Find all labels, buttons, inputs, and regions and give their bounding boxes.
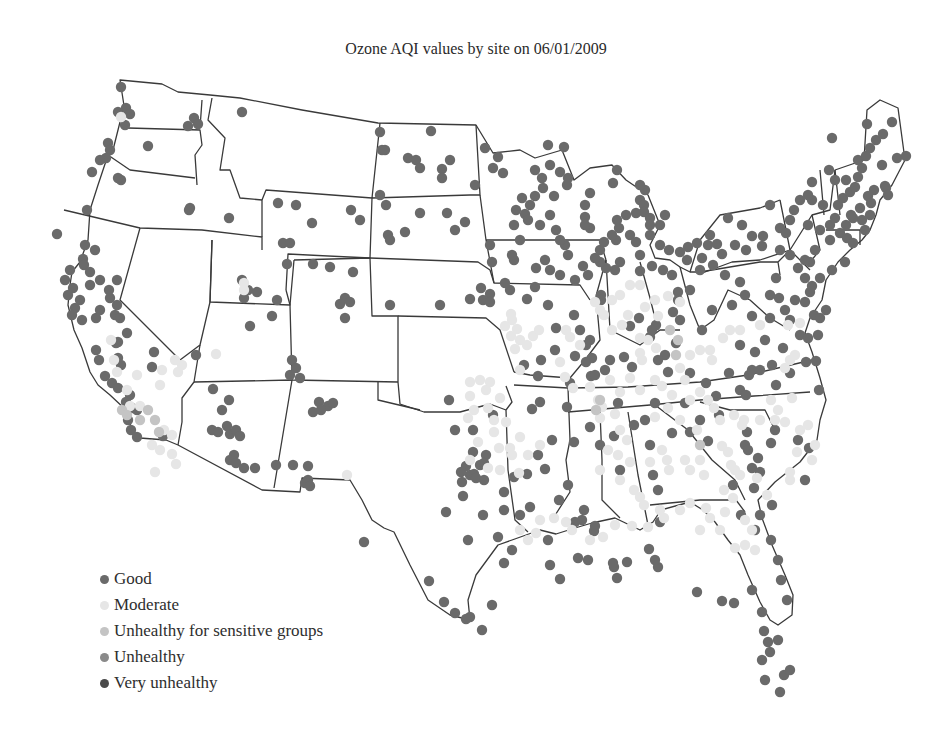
site-dot	[807, 455, 817, 465]
site-dot	[685, 285, 695, 295]
site-dot	[555, 270, 565, 280]
site-dot	[523, 535, 533, 545]
site-dot	[555, 574, 565, 584]
site-dot	[60, 275, 70, 285]
site-dot	[762, 490, 772, 500]
site-dot	[483, 463, 493, 473]
site-dot	[577, 515, 587, 525]
site-dot	[245, 321, 255, 331]
site-dot	[132, 432, 142, 442]
site-dot	[535, 220, 545, 230]
site-dot	[590, 521, 600, 531]
site-dot	[675, 505, 685, 515]
site-dot	[787, 393, 797, 403]
site-dot	[95, 275, 105, 285]
site-dot	[125, 109, 135, 119]
site-dot	[776, 575, 786, 585]
site-dot	[778, 343, 788, 353]
site-dot	[866, 198, 876, 208]
site-dot	[167, 430, 177, 440]
site-dot	[523, 450, 533, 460]
site-dot	[755, 510, 765, 520]
site-dot	[525, 200, 535, 210]
site-dot	[239, 285, 249, 295]
site-dot	[143, 405, 153, 415]
site-dot	[658, 265, 668, 275]
site-dot	[663, 367, 673, 377]
site-dot	[785, 665, 795, 675]
site-dot	[465, 455, 475, 465]
site-dot	[660, 210, 670, 220]
site-dot	[608, 178, 618, 188]
site-dot	[887, 117, 897, 127]
site-dot	[774, 293, 784, 303]
site-dot	[667, 390, 677, 400]
site-dot	[272, 295, 282, 305]
site-dot	[580, 212, 590, 222]
site-dot	[640, 415, 650, 425]
site-dot	[657, 445, 667, 455]
site-dot	[551, 225, 561, 235]
site-dot	[771, 380, 781, 390]
site-dot	[457, 477, 467, 487]
site-dot	[346, 205, 356, 215]
site-dot	[605, 375, 615, 385]
site-dot	[150, 415, 160, 425]
site-dot	[510, 344, 520, 354]
site-dot	[671, 350, 681, 360]
site-dot	[830, 213, 840, 223]
site-dot	[695, 265, 705, 275]
site-dot	[585, 535, 595, 545]
site-dot	[460, 217, 470, 227]
site-dot	[85, 267, 95, 277]
site-dot	[115, 313, 125, 323]
site-dot	[599, 310, 609, 320]
site-dot	[549, 191, 559, 201]
site-dot	[52, 229, 62, 239]
site-dot	[224, 213, 234, 223]
legend-item-good: Good	[100, 566, 323, 592]
site-dot	[562, 402, 572, 412]
site-dot	[668, 307, 678, 317]
site-dot	[570, 275, 580, 285]
legend-item-moderate: Moderate	[100, 592, 323, 618]
site-dot	[663, 403, 673, 413]
site-dot	[653, 485, 663, 495]
site-dot	[765, 647, 775, 657]
site-dot	[252, 287, 262, 297]
site-dot	[65, 265, 75, 275]
site-dot	[95, 155, 105, 165]
legend-label: Very unhealthy	[114, 673, 217, 693]
site-dot	[773, 555, 783, 565]
site-dot	[147, 362, 157, 372]
site-dot	[865, 210, 875, 220]
site-dot	[267, 311, 277, 321]
site-dot	[515, 525, 525, 535]
site-dot	[599, 237, 609, 247]
site-dot	[662, 455, 672, 465]
site-dot	[800, 475, 810, 485]
site-dot	[598, 532, 608, 542]
site-dot	[435, 300, 445, 310]
site-dot	[841, 220, 851, 230]
site-dot	[810, 440, 820, 450]
site-dot	[675, 415, 685, 425]
site-dot	[439, 597, 449, 607]
site-dot	[575, 340, 585, 350]
site-dot	[815, 273, 825, 283]
site-dot	[685, 498, 695, 508]
site-dot	[325, 262, 335, 272]
site-dot	[507, 450, 517, 460]
site-dot	[534, 325, 544, 335]
site-dot	[222, 421, 232, 431]
site-dot	[112, 300, 122, 310]
site-dot	[643, 335, 653, 345]
site-dot	[680, 455, 690, 465]
site-dot	[90, 245, 100, 255]
site-dot	[723, 447, 733, 457]
site-dot	[80, 240, 90, 250]
site-dot	[217, 405, 227, 415]
site-dot	[782, 595, 792, 605]
site-dot	[613, 450, 623, 460]
site-dot	[647, 261, 657, 271]
